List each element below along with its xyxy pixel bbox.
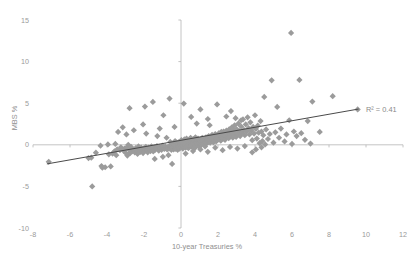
data-point (163, 135, 169, 141)
data-point (183, 150, 189, 156)
data-point (108, 163, 114, 169)
y-tick-label: 10 (21, 57, 29, 66)
data-point (330, 93, 336, 99)
data-point (197, 106, 203, 112)
data-point (282, 138, 288, 144)
x-tick-label: 10 (362, 230, 370, 239)
r-squared-annotation: R² = 0.41 (366, 105, 397, 114)
data-point (288, 30, 294, 36)
chart-canvas: 151050-5-10 -8-6-4-2024681012 10-year Tr… (0, 0, 415, 261)
data-point (105, 141, 111, 147)
data-point (140, 121, 146, 127)
data-point (207, 122, 213, 128)
x-tick-label: 12 (399, 230, 407, 239)
data-point (305, 118, 311, 124)
x-tick-label: -2 (141, 230, 147, 239)
x-tick-label: 6 (290, 230, 294, 239)
data-point (272, 129, 278, 135)
data-point (296, 77, 302, 83)
x-tick-label: 0 (179, 230, 183, 239)
data-point (97, 143, 103, 149)
data-point (228, 108, 234, 114)
data-point (169, 161, 175, 167)
y-tick-label: 15 (21, 16, 29, 25)
y-tick-label: -5 (23, 182, 29, 191)
x-tick-label: -6 (67, 230, 73, 239)
data-point (181, 101, 187, 107)
data-point (212, 145, 218, 151)
axis-lines (33, 20, 403, 228)
data-point (261, 94, 267, 100)
x-tick-label: 2 (216, 230, 220, 239)
data-point (289, 141, 295, 147)
data-point (115, 129, 121, 135)
data-point (269, 77, 275, 83)
data-point (232, 115, 238, 121)
data-point (298, 130, 304, 136)
data-point (205, 149, 211, 155)
data-point (214, 101, 220, 107)
data-point (131, 127, 137, 133)
data-point (160, 112, 166, 118)
data-point (171, 124, 177, 130)
data-point (309, 98, 315, 104)
data-points (46, 30, 361, 190)
data-point (302, 137, 308, 143)
data-point (126, 105, 132, 111)
data-point (150, 99, 156, 105)
data-point (157, 125, 163, 131)
y-axis-title: MBS % (10, 105, 19, 130)
data-point (278, 125, 284, 131)
data-point (220, 147, 226, 153)
trend-line (47, 109, 359, 164)
data-point (120, 124, 126, 130)
data-point (188, 114, 194, 120)
data-point (165, 152, 171, 158)
data-point (194, 120, 200, 126)
y-tick-label: 5 (25, 99, 29, 108)
data-point (283, 131, 289, 137)
data-point (234, 145, 240, 151)
data-point (112, 141, 118, 147)
data-point (276, 135, 282, 141)
data-point (274, 104, 280, 110)
data-point (166, 96, 172, 102)
x-tick-labels: -8-6-4-2024681012 (30, 230, 407, 239)
data-point (307, 140, 313, 146)
data-point (143, 130, 149, 136)
y-tick-labels: 151050-5-10 (19, 16, 29, 233)
x-tick-label: -4 (104, 230, 110, 239)
data-point (142, 103, 148, 109)
data-point (223, 113, 229, 119)
data-point (160, 154, 166, 160)
data-point (123, 131, 129, 137)
y-tick-label: -10 (19, 224, 29, 233)
scatter-chart: 151050-5-10 -8-6-4-2024681012 10-year Tr… (0, 0, 415, 261)
data-point (89, 183, 95, 189)
data-point (205, 116, 211, 122)
x-tick-label: 4 (253, 230, 257, 239)
data-point (286, 117, 292, 123)
data-point (265, 136, 271, 142)
x-tick-label: -8 (30, 230, 36, 239)
data-point (154, 133, 160, 139)
x-axis-title: 10-year Treasuries % (172, 242, 243, 251)
y-tick-label: 0 (25, 140, 29, 149)
data-point (242, 143, 248, 149)
data-point (252, 112, 258, 118)
data-point (152, 156, 158, 162)
trend-line-segment (47, 109, 359, 164)
data-point (317, 129, 323, 135)
data-point (267, 131, 273, 137)
x-tick-label: 8 (327, 230, 331, 239)
